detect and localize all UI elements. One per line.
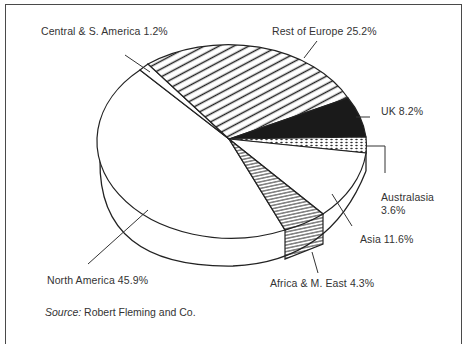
source-text: Robert Fleming and Co.: [81, 306, 195, 318]
pie-top-face: [97, 45, 367, 239]
label-australasia: Australasia: [381, 191, 434, 203]
label-north-america: North America 45.9%: [47, 274, 148, 286]
source-note: Source: Robert Fleming and Co.: [45, 306, 196, 318]
label-central-s-america: Central & S. America 1.2%: [41, 25, 168, 37]
label-uk: UK 8.2%: [381, 105, 423, 117]
label-africa-m-east: Africa & M. East 4.3%: [270, 277, 374, 289]
label-rest-of-europe: Rest of Europe 25.2%: [272, 25, 377, 37]
source-prefix: Source:: [45, 306, 81, 318]
label-australasia-value: 3.6%: [381, 204, 405, 216]
label-asia: Asia 11.6%: [360, 233, 413, 245]
